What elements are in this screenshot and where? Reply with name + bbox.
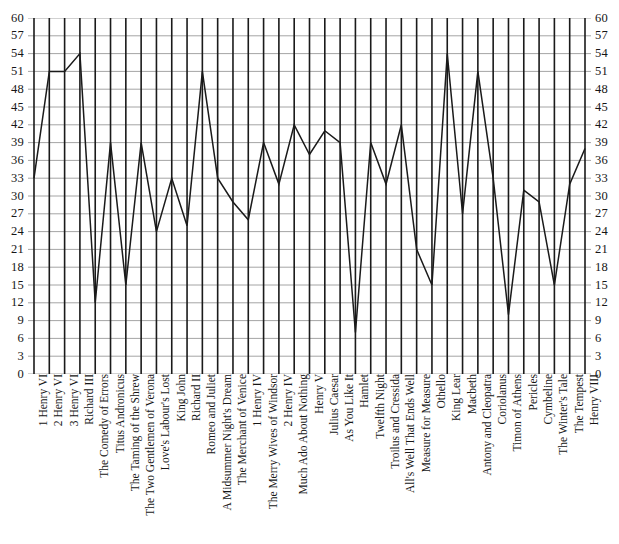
x-axis-category-label: Love's Labour's Lost xyxy=(160,374,172,470)
x-axis-category-label: The Merry Wives of Windsor xyxy=(268,374,280,509)
x-axis-category-label: The Taming of the Shrew xyxy=(130,374,142,491)
y-axis-tick-label-left: 51 xyxy=(11,65,24,78)
plot-area xyxy=(28,18,591,374)
y-axis-tick-label-right: 30 xyxy=(595,190,608,203)
x-axis-category-label: Richard II xyxy=(191,374,203,421)
x-axis-category-label: Hamlet xyxy=(359,374,371,408)
x-axis-category-label: Measure for Measure xyxy=(421,374,433,472)
y-axis-tick-label-left: 45 xyxy=(11,101,24,114)
y-axis-tick-label-left: 15 xyxy=(11,279,24,292)
x-axis-category-label: Coriolanus xyxy=(497,374,509,424)
y-axis-tick-label-left: 54 xyxy=(11,47,24,60)
y-axis-tick-label-left: 9 xyxy=(18,314,24,327)
y-axis-tick-label-right: 18 xyxy=(595,261,608,274)
x-axis-category-label: Julius Caesar xyxy=(329,374,341,435)
x-axis-category-label: Romeo and Juliet xyxy=(206,374,218,455)
y-axis-tick-label-right: 3 xyxy=(595,350,601,363)
x-axis-category-label: 1 Henry VI xyxy=(38,374,50,426)
x-axis-category-label: Pericles xyxy=(528,374,540,410)
y-axis-tick-label-right: 12 xyxy=(595,296,608,309)
x-axis-category-label: Henry VIII xyxy=(589,374,601,425)
y-axis-tick-label-left: 57 xyxy=(11,29,24,42)
x-axis-category-label: 2 Henry IV xyxy=(283,374,295,426)
x-axis-category-label: Troilus and Cressida xyxy=(390,374,402,469)
line-chart: 03691215182124273033363942454851545760 0… xyxy=(0,0,619,544)
y-axis-tick-label-right: 27 xyxy=(595,207,608,220)
y-axis-tick-label-left: 3 xyxy=(18,350,24,363)
y-axis-tick-label-left: 6 xyxy=(18,332,24,345)
x-axis-category-label: Richard III xyxy=(84,374,96,425)
x-axis-category-label: Timon of Athens xyxy=(512,374,524,452)
y-axis-tick-label-right: 57 xyxy=(595,29,608,42)
x-axis-category-label: The Two Gentlemen of Verona xyxy=(145,374,157,516)
plot-svg xyxy=(28,18,591,374)
x-axis-category-label: The Winter's Tale xyxy=(558,374,570,455)
y-axis-tick-label-right: 42 xyxy=(595,118,608,131)
y-axis-tick-label-right: 39 xyxy=(595,136,608,149)
y-axis-tick-label-right: 21 xyxy=(595,243,608,256)
x-axis-category-labels: 1 Henry VI2 Henry VI3 Henry VIRichard II… xyxy=(28,374,591,544)
y-axis-tick-label-right: 45 xyxy=(595,101,608,114)
y-axis-tick-label-right: 36 xyxy=(595,154,608,167)
y-axis-tick-label-right: 54 xyxy=(595,47,608,60)
y-axis-tick-label-right: 15 xyxy=(595,279,608,292)
y-axis-tick-label-right: 51 xyxy=(595,65,608,78)
y-axis-tick-label-left: 30 xyxy=(11,190,24,203)
y-axis-tick-label-left: 48 xyxy=(11,83,24,96)
x-axis-category-label: King John xyxy=(176,374,188,422)
y-axis-tick-label-right: 60 xyxy=(595,12,608,25)
x-axis-category-label: The Comedy of Errors xyxy=(99,374,111,478)
y-axis-tick-label-left: 24 xyxy=(11,225,24,238)
y-axis-tick-label-left: 36 xyxy=(11,154,24,167)
y-axis-tick-label-left: 0 xyxy=(18,368,24,381)
x-axis-category-label: 3 Henry VI xyxy=(69,374,81,426)
y-axis-tick-label-left: 33 xyxy=(11,172,24,185)
y-axis-tick-label-right: 48 xyxy=(595,83,608,96)
y-axis-tick-label-left: 12 xyxy=(11,296,24,309)
y-axis-tick-label-right: 24 xyxy=(595,225,608,238)
y-axis-tick-label-left: 21 xyxy=(11,243,24,256)
y-axis-tick-label-left: 18 xyxy=(11,261,24,274)
y-axis-tick-label-right: 9 xyxy=(595,314,601,327)
x-axis-category-label: King Lear xyxy=(451,374,463,421)
x-axis-category-label: All's Well That Ends Well xyxy=(405,374,417,493)
y-axis-tick-label-right: 6 xyxy=(595,332,601,345)
x-axis-category-label: As You Like It xyxy=(344,374,356,442)
y-axis-tick-label-right: 33 xyxy=(595,172,608,185)
x-axis-category-label: Antony and Cleopatra xyxy=(482,374,494,476)
y-axis-tick-label-left: 27 xyxy=(11,207,24,220)
x-axis-category-label: Henry V xyxy=(314,374,326,414)
x-axis-category-label: Much Ado About Nothing xyxy=(298,374,310,494)
y-axis-tick-label-left: 42 xyxy=(11,118,24,131)
x-axis-category-label: 1 Henry IV xyxy=(252,374,264,426)
x-axis-category-label: Macbeth xyxy=(467,374,479,414)
x-axis-category-label: A Midsummer Night's Dream xyxy=(222,374,234,511)
y-axis-tick-label-left: 60 xyxy=(11,12,24,25)
y-axis-tick-label-left: 39 xyxy=(11,136,24,149)
x-axis-category-label: The Merchant of Venice xyxy=(237,374,249,485)
x-axis-category-label: Twelfth Night xyxy=(375,374,387,439)
x-axis-category-label: The Tempest xyxy=(574,374,586,433)
x-axis-category-label: Othello xyxy=(436,374,448,409)
x-axis-category-label: Cymbeline xyxy=(543,374,555,424)
x-axis-category-label: 2 Henry VI xyxy=(53,374,65,426)
x-axis-category-label: Titus Andronicus xyxy=(115,374,127,453)
